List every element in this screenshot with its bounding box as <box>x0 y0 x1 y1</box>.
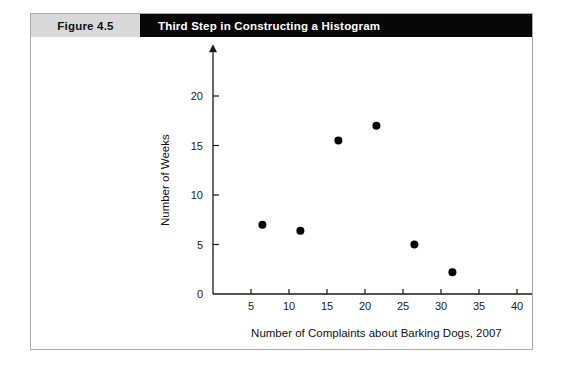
data-point <box>448 268 456 276</box>
x-axis-tick-label: 30 <box>435 300 447 312</box>
figure-number-label: Figure 4.5 <box>31 14 140 37</box>
y-axis-tick-label: 0 <box>197 288 203 300</box>
figure-header-band: Figure 4.5 Third Step in Constructing a … <box>31 14 532 37</box>
x-axis-tick-label: 10 <box>283 300 295 312</box>
y-axis-tick-label: 20 <box>191 90 203 102</box>
y-axis-tick-label: 15 <box>191 140 203 152</box>
x-axis-tick-label: 5 <box>248 300 254 312</box>
y-axis-title: Number of Weeks <box>159 134 171 226</box>
y-axis-tick-label: 5 <box>197 239 203 251</box>
chart-plot-area: 51015202530354005101520Number of Complai… <box>31 37 532 349</box>
data-point <box>296 227 304 235</box>
data-point <box>372 122 380 130</box>
x-axis-tick-label: 25 <box>397 300 409 312</box>
x-axis-tick-label: 15 <box>321 300 333 312</box>
x-axis-tick-label: 40 <box>511 300 523 312</box>
figure-panel: Figure 4.5 Third Step in Constructing a … <box>30 13 533 350</box>
x-axis-tick-label: 35 <box>473 300 485 312</box>
y-axis-tick-label: 10 <box>191 189 203 201</box>
figure-title: Third Step in Constructing a Histogram <box>140 14 532 37</box>
x-axis-title: Number of Complaints about Barking Dogs,… <box>251 327 502 339</box>
data-point <box>410 241 418 249</box>
data-point <box>258 221 266 229</box>
scatter-chart: 51015202530354005101520Number of Complai… <box>31 37 532 350</box>
data-point <box>334 137 342 145</box>
y-axis-arrow-icon <box>209 44 217 52</box>
x-axis-tick-label: 20 <box>359 300 371 312</box>
